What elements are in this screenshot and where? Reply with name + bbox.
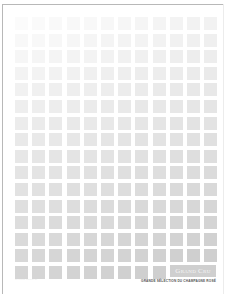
right-edge-rule xyxy=(223,4,224,294)
grid-square xyxy=(204,150,217,163)
grid-square xyxy=(32,34,45,47)
grid-square xyxy=(101,100,114,113)
grid-square xyxy=(49,249,62,262)
grid-square xyxy=(15,50,28,63)
grid-square xyxy=(32,166,45,179)
grid-square xyxy=(135,200,148,213)
grid-square xyxy=(135,249,148,262)
grid-square xyxy=(84,17,97,30)
grid-square xyxy=(32,67,45,80)
grid-square xyxy=(32,117,45,130)
grid-square xyxy=(135,100,148,113)
grid-square xyxy=(204,133,217,146)
grand-cru-logo: Grand Cru xyxy=(170,265,216,277)
grid-square xyxy=(101,216,114,229)
grid-square xyxy=(153,166,166,179)
grid-square xyxy=(32,200,45,213)
grid-square xyxy=(118,200,131,213)
grid-square xyxy=(187,216,200,229)
grid-square xyxy=(15,117,28,130)
grid-square xyxy=(67,50,80,63)
grid-square xyxy=(49,133,62,146)
grid-square xyxy=(84,133,97,146)
grid-square xyxy=(118,183,131,196)
grid-square xyxy=(118,117,131,130)
grid-square xyxy=(32,216,45,229)
grid-square xyxy=(101,166,114,179)
grid-square xyxy=(32,150,45,163)
grid-square xyxy=(187,100,200,113)
grid-square xyxy=(204,50,217,63)
grid-square xyxy=(170,200,183,213)
grid-square xyxy=(15,200,28,213)
grid-square xyxy=(101,150,114,163)
grid-square xyxy=(67,150,80,163)
grid-square xyxy=(170,249,183,262)
grid-square xyxy=(153,83,166,96)
grid-square xyxy=(32,50,45,63)
grid-square xyxy=(101,50,114,63)
grid-square xyxy=(118,266,131,279)
grid-square xyxy=(135,133,148,146)
grid-square xyxy=(118,100,131,113)
grid-square xyxy=(67,133,80,146)
grid-square xyxy=(118,34,131,47)
grid-square xyxy=(84,216,97,229)
grid-square xyxy=(153,67,166,80)
grid-square xyxy=(101,34,114,47)
grid-square xyxy=(84,166,97,179)
grid-square xyxy=(135,50,148,63)
grid-square xyxy=(67,34,80,47)
grid-square xyxy=(204,17,217,30)
grid-square xyxy=(170,83,183,96)
grid-square xyxy=(49,166,62,179)
grid-square xyxy=(101,200,114,213)
grid-square xyxy=(135,67,148,80)
grid-square xyxy=(118,249,131,262)
grid-square xyxy=(49,150,62,163)
grid-square xyxy=(49,100,62,113)
grid-square xyxy=(204,200,217,213)
grid-square xyxy=(170,183,183,196)
grid-square xyxy=(67,200,80,213)
grid-square xyxy=(32,183,45,196)
grid-square xyxy=(15,183,28,196)
grid-square xyxy=(84,100,97,113)
grid-square xyxy=(15,100,28,113)
grid-square xyxy=(49,83,62,96)
grid-square xyxy=(15,34,28,47)
grid-square xyxy=(49,183,62,196)
grid-square xyxy=(49,17,62,30)
grid-square xyxy=(153,266,166,279)
grid-square xyxy=(15,166,28,179)
grid-square xyxy=(101,67,114,80)
grid-square xyxy=(135,83,148,96)
grid-square xyxy=(101,249,114,262)
grid-square xyxy=(153,133,166,146)
grid-square xyxy=(204,117,217,130)
grid-square xyxy=(135,117,148,130)
grid-square xyxy=(187,50,200,63)
grid-square xyxy=(32,83,45,96)
grid-square xyxy=(101,83,114,96)
grid-square xyxy=(67,183,80,196)
grid-square xyxy=(67,233,80,246)
grid-square xyxy=(187,233,200,246)
grid-square xyxy=(84,200,97,213)
grid-square xyxy=(49,266,62,279)
grid-square xyxy=(49,200,62,213)
grid-square xyxy=(84,50,97,63)
grid-square xyxy=(153,50,166,63)
square-grid-pattern xyxy=(15,17,219,279)
grid-square xyxy=(204,83,217,96)
grid-square xyxy=(49,117,62,130)
grid-square xyxy=(49,216,62,229)
grid-square xyxy=(170,117,183,130)
grid-square xyxy=(187,183,200,196)
grid-square xyxy=(84,150,97,163)
grid-square xyxy=(32,233,45,246)
grid-square xyxy=(153,150,166,163)
grid-square xyxy=(118,216,131,229)
grid-square xyxy=(32,266,45,279)
grid-square xyxy=(170,100,183,113)
